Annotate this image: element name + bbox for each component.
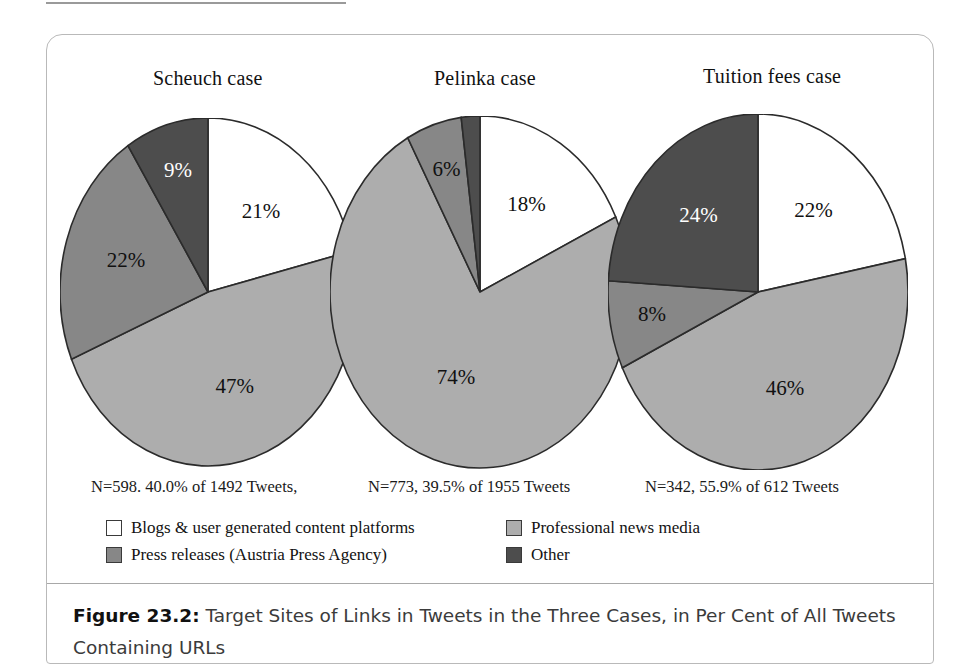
pie-note-scheuch: N=598. 40.0% of 1492 Tweets, [91, 477, 297, 497]
legend-swatch-blogs-icon [106, 520, 122, 536]
legend-item-professional-news: Professional news media [506, 518, 806, 538]
legend-item-press-releases: Press releases (Austria Press Agency) [106, 545, 506, 565]
legend-label-press-releases: Press releases (Austria Press Agency) [131, 545, 387, 565]
page-top-rule [46, 2, 346, 4]
legend-item-blogs: Blogs & user generated content platforms [106, 518, 506, 538]
legend-swatch-professional-news-icon [506, 520, 522, 536]
legend-label-professional-news: Professional news media [531, 518, 700, 538]
legend-swatch-press-releases-icon [106, 547, 122, 563]
figure-caption-label: Figure 23.2: [73, 605, 200, 626]
legend-row: Press releases (Austria Press Agency) Ot… [106, 545, 806, 572]
legend-swatch-other-icon [506, 547, 522, 563]
legend-label-other: Other [531, 545, 570, 565]
pie-note-tuition-fees: N=342, 55.9% of 612 Tweets [645, 477, 839, 497]
caption-separator [47, 583, 933, 584]
legend-label-blogs: Blogs & user generated content platforms [131, 518, 415, 538]
figure-caption: Figure 23.2: Target Sites of Links in Tw… [73, 600, 913, 664]
pie-note-pelinka: N=773, 39.5% of 1955 Tweets [368, 477, 570, 497]
chart-legend: Blogs & user generated content platforms… [106, 518, 806, 572]
legend-row: Blogs & user generated content platforms… [106, 518, 806, 545]
legend-item-other: Other [506, 545, 806, 565]
